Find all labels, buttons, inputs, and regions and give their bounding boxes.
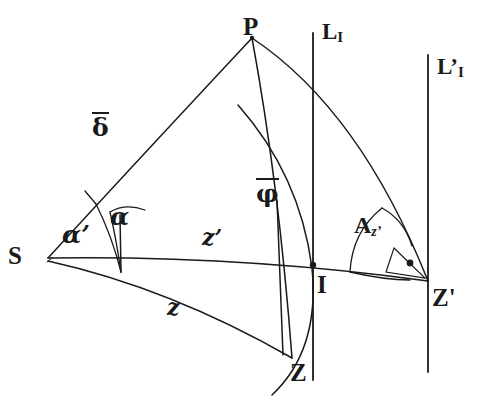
arc-s-to-zprime-zprime (48, 258, 428, 281)
point-label-s: S (8, 243, 22, 268)
line-label-li-base: L (322, 19, 337, 44)
arc-small-circle-through-i (238, 105, 313, 395)
arc-label-phi-text: φ (256, 178, 279, 206)
angle-label-azimuth-subscript: z’ (371, 224, 381, 239)
arc-label-phi: φ (256, 178, 279, 206)
point-label-i: I (317, 272, 327, 297)
geometry-diagram: P S Z I Z' LI L’I δ φ z’ z α’ α Az’ (0, 0, 485, 413)
arc-label-z: z (167, 296, 180, 318)
point-label-z: Z (290, 360, 307, 385)
point-label-zprime: Z' (432, 285, 456, 310)
line-label-lpi-subscript: I (458, 64, 464, 80)
arc-label-delta: δ (92, 112, 109, 140)
point-marker-i (310, 262, 316, 268)
right-angle-marker (386, 248, 425, 278)
angle-label-alpha: α (110, 204, 129, 229)
right-angle-dot-icon (407, 260, 414, 267)
vertical-line-label-lpi: L’I (437, 55, 464, 80)
angle-label-azimuth-base: A (354, 212, 371, 238)
angle-label-azimuth: Az’ (354, 213, 381, 239)
angle-arc-alpha-prime-end (85, 191, 96, 204)
angle-label-alpha-prime: α’ (62, 222, 90, 247)
vertical-line-label-li: LI (322, 20, 343, 45)
line-label-lpi-base: L’ (437, 54, 458, 79)
arc-label-delta-text: δ (92, 112, 109, 140)
point-label-p: P (243, 14, 258, 39)
diagram-canvas (0, 0, 485, 413)
line-label-li-subscript: I (337, 29, 343, 45)
arc-label-zprime: z’ (202, 226, 222, 248)
